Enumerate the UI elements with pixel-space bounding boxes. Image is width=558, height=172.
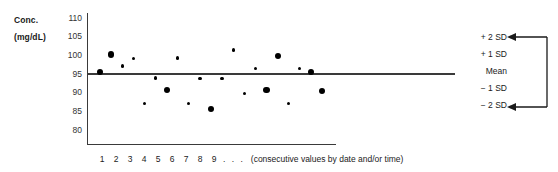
x-axis-tick-7: 7 [179, 154, 193, 164]
x-axis-tick-5: 5 [151, 154, 165, 164]
x-axis-tick-8: 8 [193, 154, 207, 164]
y-axis-tick-80: 80 [56, 125, 82, 135]
data-point [319, 88, 325, 94]
sd-label: + 2 SD [455, 29, 507, 46]
sd-label: − 1 SD [455, 80, 507, 97]
x-axis-tick-2: 2 [109, 154, 123, 164]
x-axis-tick-6: 6 [165, 154, 179, 164]
sd-label: Mean [455, 63, 507, 80]
y-axis-tick-95: 95 [56, 69, 82, 79]
data-point [287, 102, 290, 105]
y-axis-title-line1: Conc. [14, 12, 46, 29]
data-point [298, 67, 301, 70]
sd-label: + 1 SD [455, 46, 507, 63]
data-point [263, 87, 269, 93]
data-point [108, 51, 114, 57]
y-axis-tick-105: 105 [56, 31, 82, 41]
data-point [164, 87, 170, 93]
y-axis-title-line2: (mg/dL) [14, 29, 46, 46]
sd-range-bracket [505, 29, 555, 115]
x-axis-tick-9: 9 [207, 154, 221, 164]
x-axis-labels: 123456789. . .(consecutive values by dat… [95, 154, 403, 164]
x-axis-tick-1: 1 [95, 154, 109, 164]
chart-container: Conc. (mg/dL) 11010510095908580 12345678… [0, 0, 558, 172]
y-axis-title: Conc. (mg/dL) [14, 12, 46, 46]
x-axis-ellipsis: . . . [221, 154, 247, 164]
data-point [254, 67, 257, 70]
x-axis-caption: (consecutive values by date and/or time) [247, 154, 404, 164]
data-point [232, 48, 235, 51]
data-point [243, 92, 246, 95]
data-point [143, 102, 146, 105]
sd-label-list: + 2 SD+ 1 SDMean− 1 SD− 2 SD [455, 29, 507, 114]
data-point [132, 57, 135, 60]
y-axis-tick-90: 90 [56, 87, 82, 97]
x-axis-line [87, 144, 336, 145]
data-point [187, 102, 190, 105]
mean-reference-line [87, 73, 455, 74]
x-axis-tick-4: 4 [137, 154, 151, 164]
y-axis-tick-100: 100 [56, 50, 82, 60]
data-point [121, 64, 124, 67]
data-point [275, 53, 281, 59]
data-point [220, 77, 223, 80]
x-axis-tick-3: 3 [123, 154, 137, 164]
y-axis-tick-85: 85 [56, 106, 82, 116]
data-point [198, 77, 201, 80]
data-point [208, 106, 214, 112]
data-point [176, 56, 179, 59]
sd-label: − 2 SD [455, 97, 507, 114]
data-point [154, 76, 157, 79]
y-axis-tick-110: 110 [56, 13, 82, 23]
y-axis-line [87, 13, 88, 144]
